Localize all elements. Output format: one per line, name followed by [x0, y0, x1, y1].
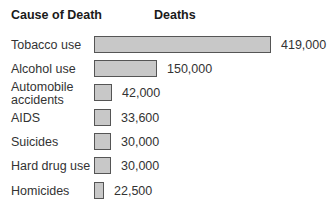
- bar: [94, 109, 111, 126]
- column-header-deaths: Deaths: [154, 8, 196, 22]
- value-label: 30,000: [121, 159, 159, 173]
- bar-row: Hard drug use30,000: [0, 157, 331, 181]
- category-label: Tobacco use: [11, 39, 81, 52]
- category-label: Automobileaccidents: [11, 81, 74, 107]
- bar-row: Automobileaccidents42,000: [0, 84, 331, 108]
- bar-row: Suicides30,000: [0, 133, 331, 157]
- value-label: 42,000: [122, 86, 160, 100]
- bar: [94, 84, 112, 101]
- bar-row: AIDS33,600: [0, 109, 331, 133]
- category-label: Homicides: [11, 185, 69, 198]
- category-label: AIDS: [11, 112, 40, 125]
- bar: [94, 157, 111, 174]
- bar: [94, 36, 271, 53]
- value-label: 150,000: [167, 62, 212, 76]
- category-label: Alcohol use: [11, 63, 76, 76]
- category-label: Hard drug use: [11, 160, 90, 173]
- column-header-cause: Cause of Death: [11, 8, 102, 22]
- value-label: 419,000: [281, 38, 326, 52]
- bar: [94, 60, 157, 77]
- bar-row: Tobacco use419,000: [0, 36, 331, 60]
- value-label: 30,000: [121, 135, 159, 149]
- value-label: 33,600: [121, 111, 159, 125]
- bar-row: Homicides22,500: [0, 182, 331, 206]
- category-label: Suicides: [11, 136, 58, 149]
- value-label: 22,500: [114, 184, 152, 198]
- bar: [94, 133, 111, 150]
- bar: [94, 182, 104, 199]
